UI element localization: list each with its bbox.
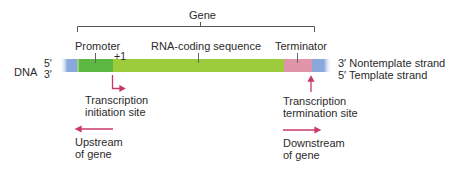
- upstream-line2: of gene: [75, 148, 112, 160]
- rna-coding-sequence-label: RNA-coding sequence: [151, 40, 261, 52]
- gene-bracket: [78, 22, 315, 32]
- left-flank-region: [60, 59, 78, 72]
- initiation-site-line2: initiation site: [85, 106, 146, 118]
- nontemplate-strand-label: 3′ Nontemplate strand: [338, 57, 445, 69]
- gene-diagram-graphics: [0, 0, 457, 169]
- downstream-line1: Downstream: [283, 137, 345, 149]
- initiation-arrow-icon: [113, 75, 125, 91]
- upstream-arrow-icon: [76, 127, 113, 132]
- downstream-line2: of gene: [283, 149, 320, 161]
- downstream-arrow-icon: [283, 128, 320, 133]
- right-flank-region: [312, 59, 332, 72]
- initiation-site-line1: Transcription: [85, 94, 148, 106]
- dna-label: DNA: [14, 66, 37, 78]
- template-strand-label: 5′ Template strand: [338, 69, 427, 81]
- termination-site-line1: Transcription: [283, 95, 346, 107]
- plus-one-label: +1: [114, 50, 126, 62]
- upstream-line1: Upstream: [75, 136, 123, 148]
- termination-site-line2: termination site: [283, 107, 358, 119]
- dna-bar: [60, 59, 332, 72]
- terminator-label: Terminator: [275, 40, 327, 52]
- termination-arrow-icon: [309, 77, 314, 93]
- three-prime-end-left: 3′: [44, 68, 52, 80]
- gene-label: Gene: [189, 9, 216, 21]
